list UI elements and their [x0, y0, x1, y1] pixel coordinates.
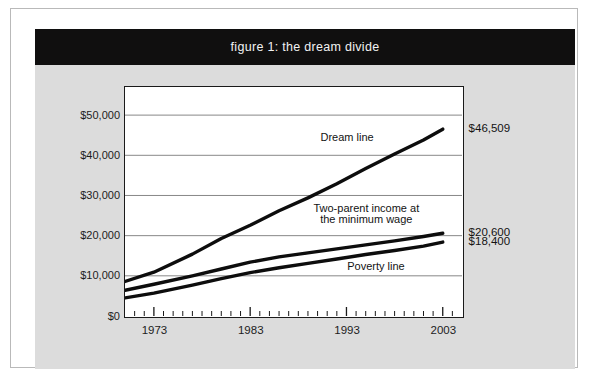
chart-region: $0$10,000$20,000$30,000$40,000$50,000 19…	[35, 65, 575, 369]
series-end-value-label: $18,400	[469, 235, 511, 247]
series-annotation: the minimum wage	[320, 213, 412, 226]
x-axis-tick-label: 2003	[431, 324, 457, 336]
figure-title-banner: figure 1: the dream divide	[35, 29, 575, 65]
x-axis-tick-label: 1973	[142, 324, 168, 336]
figure-page: figure 1: the dream divide $0$10,000$20,…	[0, 0, 595, 377]
scan-frame: figure 1: the dream divide $0$10,000$20,…	[10, 8, 578, 368]
series-annotation: Dream line	[320, 131, 373, 144]
figure-title: figure 1: the dream divide	[231, 40, 380, 54]
x-axis-tick-label: 1983	[238, 324, 264, 336]
series-annotation: Poverty line	[347, 260, 404, 273]
x-axis-tick-label: 1993	[334, 324, 360, 336]
figure-panel: figure 1: the dream divide $0$10,000$20,…	[35, 29, 575, 369]
series-end-value-label: $46,509	[469, 122, 511, 134]
